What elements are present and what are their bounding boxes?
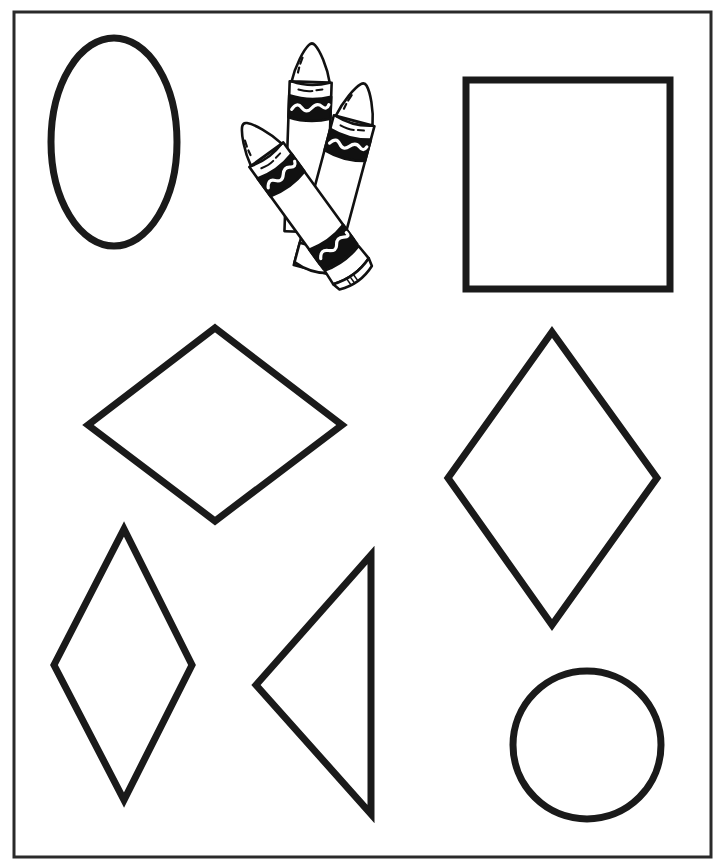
square-shape[interactable]	[466, 80, 670, 289]
small-diamond-shape[interactable]	[54, 529, 192, 800]
crayons-icon	[226, 43, 385, 294]
oval-shape[interactable]	[51, 38, 177, 246]
wide-diamond-shape[interactable]	[88, 328, 342, 521]
circle-shape[interactable]	[513, 671, 661, 819]
coloring-page: Shapes coloring page three crayons Oval …	[0, 0, 723, 867]
tall-diamond-shape[interactable]	[448, 332, 657, 625]
triangle-shape[interactable]	[256, 555, 371, 814]
coloring-canvas	[0, 0, 723, 867]
